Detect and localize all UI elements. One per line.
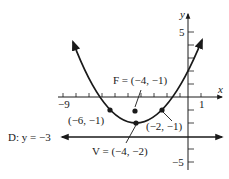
x-tick-label-left: −9 xyxy=(58,98,70,110)
y-tick-label-top: 5 xyxy=(179,26,185,38)
y-axis-label: y xyxy=(179,8,185,20)
left-point-label: (−6, −1) xyxy=(68,114,105,127)
focus-dot xyxy=(132,108,137,113)
vertex-dot xyxy=(133,120,138,125)
vertex-label: V = (−4, −2) xyxy=(92,145,148,158)
vertex-leader xyxy=(126,125,136,143)
x-tick-label-right: 1 xyxy=(199,98,205,110)
parabola-diagram: −9 1 x 5 −5 y D: y = −3 F = (−4, −1) V =… xyxy=(0,0,229,179)
directrix-label: D: y = −3 xyxy=(8,131,51,143)
right-point-label: (−2, −1) xyxy=(146,120,183,133)
y-tick-label-bottom: −5 xyxy=(172,156,184,168)
x-axis-label: x xyxy=(217,83,223,95)
x-axis-ticks xyxy=(63,93,201,97)
focus-label: F = (−4, −1) xyxy=(113,74,167,87)
left-point-dot xyxy=(107,107,112,112)
focus-leader xyxy=(135,90,141,107)
right-point-dot xyxy=(159,107,164,112)
